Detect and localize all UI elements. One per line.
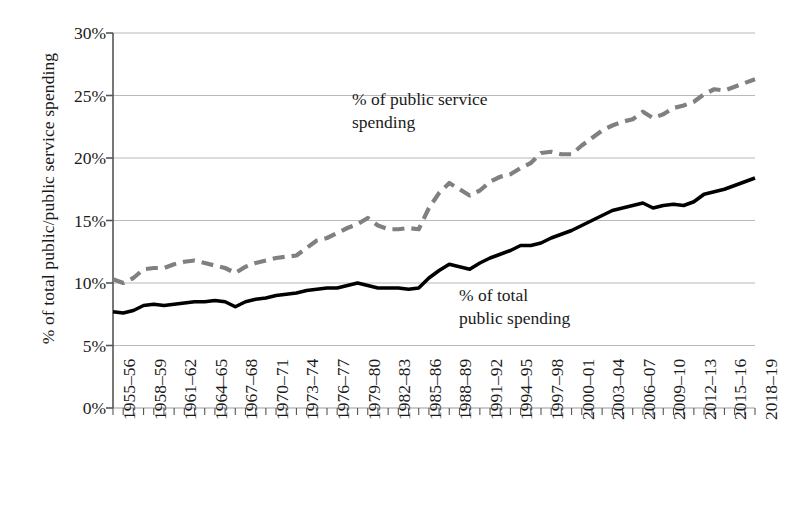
- x-tick-label: 1991–92: [486, 359, 507, 420]
- x-tick-label: 1958–59: [150, 359, 171, 420]
- x-tick-label: 1997–98: [547, 359, 568, 420]
- series-label-public-service-line2: spending: [352, 111, 488, 134]
- x-tick-label: 1985–86: [425, 359, 446, 420]
- y-axis-label: % of total public/public service spendin…: [38, 0, 59, 399]
- x-tick-label: 2018–19: [761, 359, 782, 420]
- x-tick-label: 2012–13: [700, 359, 721, 420]
- x-tick-label: 2000–01: [578, 359, 599, 420]
- x-tick-label: 1964–65: [211, 359, 232, 420]
- y-tick-25: 25%: [74, 85, 106, 106]
- series-label-total-public-line2: public spending: [459, 307, 570, 330]
- x-tick-label: 2009–10: [669, 359, 690, 420]
- x-tick-label: 1967–68: [241, 359, 262, 420]
- series-label-public-service: % of public service spending: [352, 88, 488, 134]
- y-tick-0: 0%: [83, 398, 106, 419]
- x-tick-label: 1982–83: [394, 359, 415, 420]
- y-tick-20: 20%: [74, 148, 106, 169]
- chart-figure: % of total public/public service spendin…: [0, 0, 792, 514]
- x-tick-label: 2015–16: [730, 359, 751, 420]
- x-tick-label: 1994–95: [516, 359, 537, 420]
- x-tick-label: 1973–74: [302, 359, 323, 420]
- y-tick-5: 5%: [83, 335, 106, 356]
- y-tick-10: 10%: [74, 273, 106, 294]
- x-tick-label: 1979–80: [364, 359, 385, 420]
- x-tick-label: 1970–71: [272, 359, 293, 420]
- y-tick-30: 30%: [74, 23, 106, 44]
- x-tick-label: 1961–62: [180, 359, 201, 420]
- series-label-total-public: % of total public spending: [459, 284, 570, 330]
- x-tick-label: 1988–89: [455, 359, 476, 420]
- y-tick-15: 15%: [74, 210, 106, 231]
- x-tick-label: 2006–07: [639, 359, 660, 420]
- y-axis-tick-labels: 0% 5% 10% 15% 20% 25% 30%: [58, 0, 106, 514]
- series-label-public-service-line1: % of public service: [352, 88, 488, 111]
- x-tick-label: 1976–77: [333, 359, 354, 420]
- x-tick-label: 1955–56: [119, 359, 140, 420]
- series-label-total-public-line1: % of total: [459, 284, 570, 307]
- x-tick-label: 2003–04: [608, 359, 629, 420]
- plot-area: [0, 0, 792, 514]
